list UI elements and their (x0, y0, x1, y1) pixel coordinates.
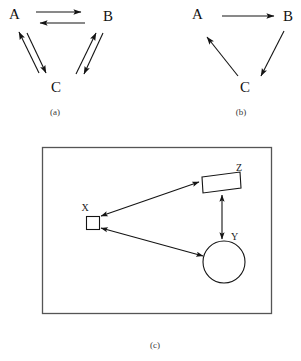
panel-c: X Y Z (c) (43, 148, 272, 351)
panel-c-caption: (c) (150, 340, 160, 350)
panel-b-caption: (b) (236, 107, 247, 117)
panel-c-edge-X-Y (101, 228, 203, 256)
panel-b-edge-B-to-C (261, 31, 284, 76)
panel-b-edge-C-to-A (207, 37, 238, 76)
panel-a-node-B-label: B (103, 8, 113, 24)
panel-b-node-C-label: C (240, 79, 250, 95)
panel-c-node-Y-label: Y (231, 231, 238, 242)
panel-c-node-Z-label: Z (236, 162, 242, 173)
panel-a-node-C-label: C (51, 79, 61, 95)
panel-c-node-X-label: X (81, 202, 89, 213)
panel-a-node-A-label: A (9, 6, 20, 22)
panel-b-node-B-label: B (283, 8, 293, 24)
panel-b-node-A-label: A (192, 6, 203, 22)
figure-canvas: A B C (a) A B C (0, 0, 301, 361)
figure-root: A B C (a) A B C (0, 0, 301, 361)
panel-c-node-Y-shape (203, 241, 245, 283)
panel-a: A B C (a) (9, 6, 113, 117)
panel-c-edge-X-Z (101, 182, 199, 216)
panel-c-node-X-shape (87, 217, 100, 230)
panel-a-caption: (a) (50, 107, 60, 117)
panel-b: A B C (b) (192, 6, 293, 117)
panel-c-node-Z-shape (202, 172, 241, 193)
